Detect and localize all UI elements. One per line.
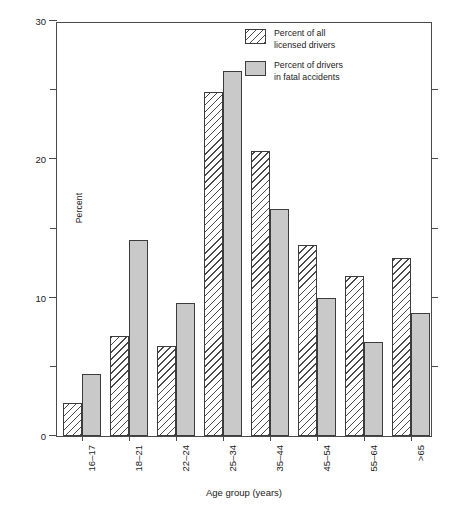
bar-licensed-drivers bbox=[392, 258, 411, 436]
bar-group bbox=[204, 23, 242, 436]
x-axis-tick bbox=[82, 436, 83, 441]
y-axis-minor-tick-right bbox=[431, 89, 438, 90]
y-axis-tick-label: 10 bbox=[35, 292, 46, 303]
bar-licensed-drivers bbox=[63, 403, 82, 436]
legend-entry-licensed-drivers: Percent of all licensed drivers bbox=[245, 28, 415, 51]
x-axis-tick-label: 45–54 bbox=[321, 445, 332, 471]
y-axis-tick-label: 20 bbox=[35, 154, 46, 165]
legend-entry-fatal-accidents: Percent of drivers in fatal accidents bbox=[245, 60, 415, 83]
x-axis-tick bbox=[129, 436, 130, 441]
legend-label-fatal-accidents: Percent of drivers in fatal accidents bbox=[274, 60, 343, 83]
bar-fatal-accidents bbox=[317, 298, 336, 436]
y-axis-minor-tick bbox=[50, 228, 57, 229]
y-axis-major-tick bbox=[49, 20, 57, 21]
bar-licensed-drivers bbox=[110, 336, 129, 436]
y-axis-minor-tick bbox=[50, 89, 57, 90]
bar-group bbox=[157, 23, 195, 436]
x-axis-tick bbox=[176, 436, 177, 441]
x-axis-tick-label: 35–44 bbox=[274, 445, 285, 471]
legend-label-licensed-drivers: Percent of all licensed drivers bbox=[274, 28, 335, 51]
y-axis-major-tick bbox=[49, 158, 57, 159]
y-axis-minor-tick-right bbox=[431, 228, 438, 229]
x-axis-tick bbox=[411, 436, 412, 441]
bar-licensed-drivers bbox=[298, 245, 317, 436]
y-axis-tick-label: 30 bbox=[35, 16, 46, 27]
y-axis-major-tick bbox=[49, 297, 57, 298]
bar-fatal-accidents bbox=[129, 240, 148, 436]
y-axis-major-tick bbox=[49, 435, 57, 436]
legend-swatch-hatched-icon bbox=[245, 29, 266, 44]
bar-fatal-accidents bbox=[270, 209, 289, 436]
y-axis-minor-tick-right bbox=[431, 366, 438, 367]
bar-fatal-accidents bbox=[82, 374, 101, 436]
x-axis-tick bbox=[223, 436, 224, 441]
y-axis-major-tick-right bbox=[431, 158, 438, 159]
y-axis-major-tick-right bbox=[431, 297, 438, 298]
x-axis-tick-label: >65 bbox=[415, 445, 426, 461]
x-axis-tick-label: 22–24 bbox=[180, 445, 191, 471]
bar-group bbox=[110, 23, 148, 436]
legend-label-line-2: in fatal accidents bbox=[274, 72, 343, 84]
legend-label-line-1: Percent of drivers bbox=[274, 60, 343, 72]
legend-label-line-2: licensed drivers bbox=[274, 40, 335, 52]
figure-bar-chart-age-group-drivers: Percent 010203016–1718–2122–2425–3435–44… bbox=[0, 0, 450, 516]
x-axis-tick bbox=[317, 436, 318, 441]
legend-label-line-1: Percent of all bbox=[274, 28, 335, 40]
x-axis-tick-label: 18–21 bbox=[133, 445, 144, 471]
x-axis-title: Age group (years) bbox=[56, 487, 432, 498]
x-axis-tick-label: 25–34 bbox=[227, 445, 238, 471]
legend: Percent of all licensed drivers Percent … bbox=[245, 28, 415, 92]
bar-fatal-accidents bbox=[223, 71, 242, 436]
bar-licensed-drivers bbox=[345, 276, 364, 436]
legend-swatch-solid-icon bbox=[245, 61, 266, 76]
x-axis-tick-label: 55–64 bbox=[368, 445, 379, 471]
bar-group bbox=[63, 23, 101, 436]
y-axis-tick-label: 0 bbox=[41, 431, 46, 442]
x-axis-tick-label: 16–17 bbox=[86, 445, 97, 471]
x-axis-tick bbox=[270, 436, 271, 441]
bar-fatal-accidents bbox=[411, 313, 430, 436]
bar-licensed-drivers bbox=[204, 92, 223, 436]
bar-licensed-drivers bbox=[157, 346, 176, 436]
bar-fatal-accidents bbox=[364, 342, 383, 436]
y-axis-minor-tick bbox=[50, 366, 57, 367]
bar-fatal-accidents bbox=[176, 303, 195, 436]
x-axis-tick bbox=[364, 436, 365, 441]
bar-licensed-drivers bbox=[251, 151, 270, 436]
